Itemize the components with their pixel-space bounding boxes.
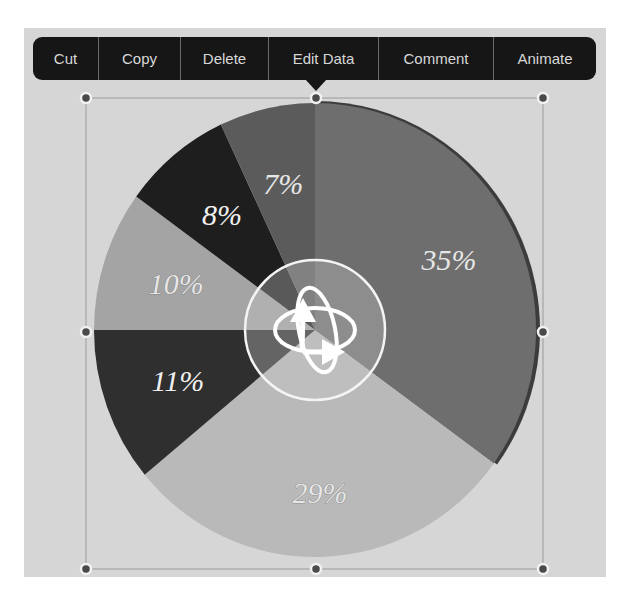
resize-handle-top[interactable] [311, 93, 321, 103]
data-label: 29% [292, 476, 347, 509]
data-label: 8% [202, 198, 242, 231]
resize-handle-right[interactable] [538, 327, 548, 337]
data-label: 11% [151, 364, 204, 397]
context-menu: CutCopyDeleteEdit DataCommentAnimate [33, 37, 596, 80]
resize-handle-top-left[interactable] [81, 93, 91, 103]
resize-handle-bottom[interactable] [311, 564, 321, 574]
menu-item-comment[interactable]: Comment [379, 37, 494, 80]
rotate-3d-control[interactable] [245, 260, 385, 400]
resize-handle-left[interactable] [81, 327, 91, 337]
menu-item-cut[interactable]: Cut [33, 37, 99, 80]
resize-handle-bottom-left[interactable] [81, 564, 91, 574]
menu-item-delete[interactable]: Delete [181, 37, 269, 80]
menu-item-copy[interactable]: Copy [99, 37, 181, 80]
menu-item-edit-data[interactable]: Edit Data [269, 37, 379, 80]
resize-handle-bottom-right[interactable] [538, 564, 548, 574]
resize-handle-top-right[interactable] [538, 93, 548, 103]
data-label: 35% [420, 243, 476, 276]
context-menu-pointer [305, 79, 327, 91]
menu-item-animate[interactable]: Animate [494, 37, 596, 80]
data-label: 10% [149, 267, 204, 300]
data-label: 7% [263, 167, 303, 200]
